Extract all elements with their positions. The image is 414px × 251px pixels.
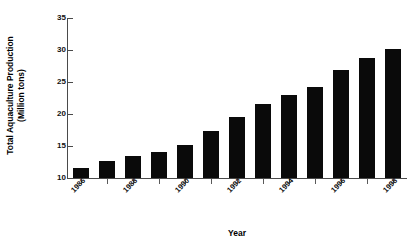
y-axis-tick-label: 35: [44, 13, 66, 23]
x-axis-tick-mark: [159, 179, 160, 184]
y-axis-title: Total Aquaculture Production (Million to…: [0, 0, 30, 190]
bar-1991: [203, 131, 219, 178]
x-axis-tick-mark: [315, 179, 316, 184]
bar-1996: [333, 70, 349, 178]
x-axis-tick-mark: [367, 179, 368, 184]
y-axis-tick-label: 25: [44, 77, 66, 87]
x-axis-tick-mark: [263, 179, 264, 184]
bar-1989: [151, 152, 167, 178]
bar-1997: [359, 58, 375, 178]
y-axis-title-line2: (Million tons): [15, 69, 25, 122]
bar-1987: [99, 161, 115, 178]
bar-1990: [177, 145, 193, 178]
y-axis-tick-label: 15: [44, 141, 66, 151]
bar-1992: [229, 117, 245, 178]
x-axis-tick-mark: [107, 179, 108, 184]
x-axis-title: Year: [68, 228, 406, 238]
y-axis-tick-label: 10: [44, 173, 66, 183]
y-axis-tick-label: 20: [44, 109, 66, 119]
y-axis-tick-label: 30: [44, 45, 66, 55]
plot-area: [68, 18, 406, 178]
bar-1988: [125, 156, 141, 178]
bar-1994: [281, 95, 297, 178]
bar-1998: [385, 49, 401, 178]
bar-1995: [307, 87, 323, 178]
aquaculture-production-bar-chart: Total Aquaculture Production (Million to…: [0, 0, 414, 251]
y-axis-title-line1: Total Aquaculture Production: [5, 36, 15, 155]
bar-1993: [255, 104, 271, 178]
x-axis-tick-mark: [211, 179, 212, 184]
